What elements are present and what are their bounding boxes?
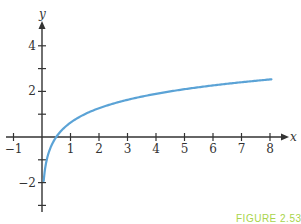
y-tick-label: 2	[28, 84, 36, 98]
figure-label: FIGURE 2.53	[236, 213, 301, 224]
x-tick-label: 6	[209, 142, 217, 156]
chart: x y −112345678 −224 FIGURE 2.53	[0, 0, 301, 224]
x-axis-arrow-icon	[281, 134, 289, 141]
x-tick-label: 4	[152, 142, 160, 156]
y-tick-label: −2	[18, 176, 36, 190]
x-axis-label: x	[290, 130, 297, 144]
x-tick-label: 2	[95, 142, 103, 156]
series-curve	[44, 79, 272, 181]
x-tick-label: 1	[67, 142, 75, 156]
x-tick-label: 7	[238, 142, 246, 156]
x-tick-label: 3	[124, 142, 132, 156]
x-tick-label: 5	[181, 142, 189, 156]
x-tick-label: −1	[5, 142, 23, 156]
y-axis-arrow-icon	[39, 21, 46, 29]
y-tick-label: 4	[28, 39, 36, 53]
x-tick-label: 8	[266, 142, 274, 156]
y-axis-label: y	[38, 7, 46, 21]
axes: x y	[6, 7, 297, 212]
